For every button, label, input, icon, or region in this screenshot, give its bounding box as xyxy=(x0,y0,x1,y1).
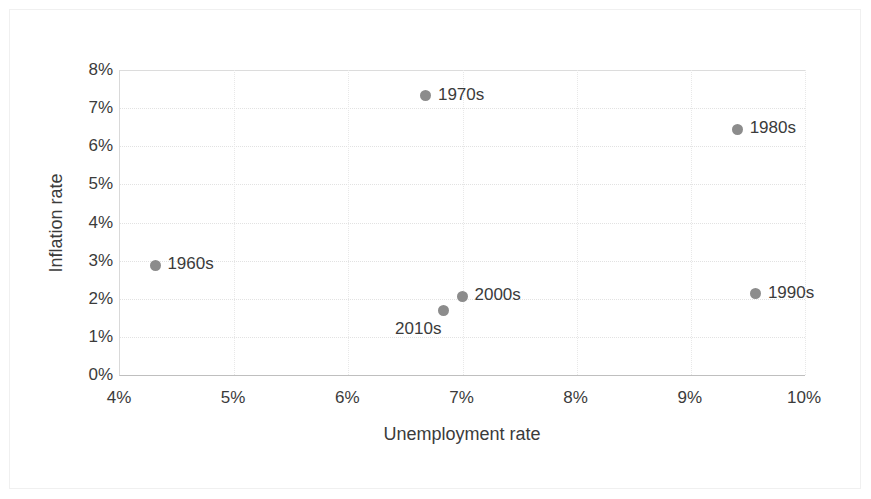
data-point-label: 2010s xyxy=(395,319,441,339)
x-axis-tick-labels: 4%5%6%7%8%9%10% xyxy=(119,388,805,414)
gridline-vertical xyxy=(691,70,692,375)
x-tick-label: 8% xyxy=(563,388,588,408)
x-tick-label: 6% xyxy=(335,388,360,408)
y-tick-label: 8% xyxy=(67,60,113,80)
data-point-marker[interactable] xyxy=(420,90,431,101)
data-point-marker[interactable] xyxy=(732,124,743,135)
x-axis-title: Unemployment rate xyxy=(119,424,805,445)
gridline-vertical xyxy=(805,70,806,375)
x-tick-label: 5% xyxy=(221,388,246,408)
data-point-label: 1960s xyxy=(167,254,213,274)
data-point-marker[interactable] xyxy=(750,288,761,299)
gridline-vertical xyxy=(234,70,235,375)
y-tick-label: 2% xyxy=(67,289,113,309)
data-point-marker[interactable] xyxy=(457,291,468,302)
x-tick-label: 4% xyxy=(107,388,132,408)
gridline-vertical xyxy=(348,70,349,375)
y-tick-label: 3% xyxy=(67,251,113,271)
gridline-vertical xyxy=(463,70,464,375)
y-tick-label: 6% xyxy=(67,136,113,156)
y-tick-label: 0% xyxy=(67,365,113,385)
y-axis-tick-labels: 0%1%2%3%4%5%6%7%8% xyxy=(65,70,113,376)
y-tick-label: 5% xyxy=(67,174,113,194)
x-tick-label: 7% xyxy=(449,388,474,408)
data-point-label: 1970s xyxy=(438,85,484,105)
y-tick-label: 7% xyxy=(67,98,113,118)
x-tick-label: 10% xyxy=(787,388,821,408)
y-tick-label: 1% xyxy=(67,327,113,347)
y-tick-label: 4% xyxy=(67,213,113,233)
y-axis-title: Inflation rate xyxy=(46,70,67,376)
plot-area: 1960s1970s1980s1990s2000s2010s xyxy=(119,70,805,376)
data-point-label: 2000s xyxy=(475,285,521,305)
x-tick-label: 9% xyxy=(678,388,703,408)
data-point-marker[interactable] xyxy=(150,260,161,271)
data-point-label: 1980s xyxy=(750,118,796,138)
data-point-label: 1990s xyxy=(768,283,814,303)
gridline-vertical xyxy=(577,70,578,375)
data-point-marker[interactable] xyxy=(438,305,449,316)
chart-figure: Inflation rate 0%1%2%3%4%5%6%7%8% 1960s1… xyxy=(0,0,871,499)
